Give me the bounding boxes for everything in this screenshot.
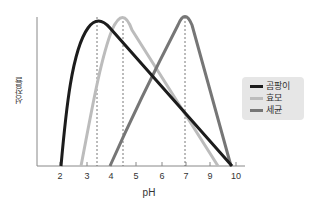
- legend-swatch-bacteria: [250, 109, 263, 112]
- legend-item-bacteria: 세균: [250, 105, 304, 116]
- x-tick-label: 9: [207, 171, 212, 181]
- x-tick-label: 10: [231, 171, 241, 181]
- x-axis-title: pH: [143, 187, 156, 198]
- legend-swatch-mold: [250, 85, 263, 88]
- x-tick-label: 4: [108, 171, 113, 181]
- x-tick-label: 5: [133, 171, 138, 181]
- legend-label: 세균: [266, 105, 282, 116]
- x-tick-label: 3: [84, 171, 89, 181]
- legend-swatch-yeast: [250, 97, 263, 100]
- x-ticks: 234567910: [57, 162, 241, 181]
- x-tick-label: 6: [159, 171, 164, 181]
- legend-label: 효모: [266, 93, 282, 104]
- legend-item-yeast: 효모: [250, 93, 304, 104]
- legend: 곰팡이 효모 세균: [242, 77, 304, 120]
- legend-item-mold: 곰팡이: [250, 81, 304, 92]
- y-axis-title: 성장률: [12, 77, 26, 104]
- legend-label: 곰팡이: [266, 81, 290, 92]
- x-tick-label: 7: [183, 171, 188, 181]
- x-tick-label: 2: [57, 171, 62, 181]
